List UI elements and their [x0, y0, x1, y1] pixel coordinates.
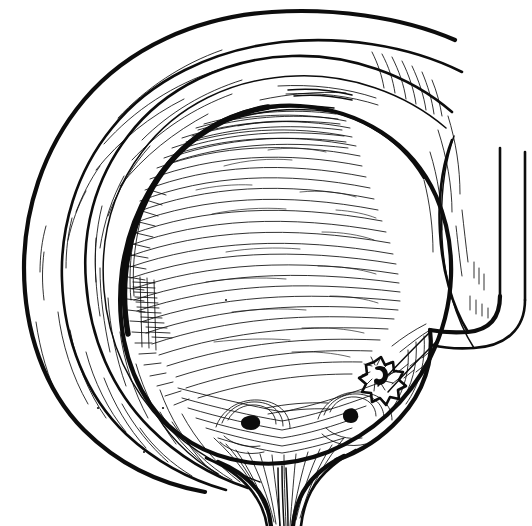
bladder-line-drawing [0, 0, 532, 526]
anatomical-figure [0, 0, 532, 526]
